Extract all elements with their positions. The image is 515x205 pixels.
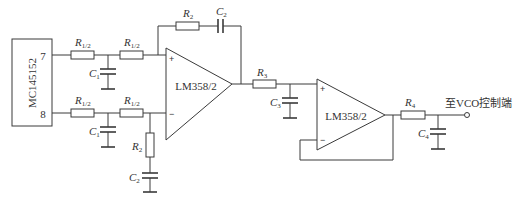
- r4-label: R4: [404, 96, 416, 110]
- resistor-r3: [253, 80, 276, 88]
- circuit-schematic: MC145152 7 8 R1/2 R1/2 C1 R1/2 R1/2 C1: [0, 0, 515, 205]
- mc145152-chip: MC145152 7 8: [12, 39, 52, 126]
- resistor-r2-feedback: [176, 22, 199, 30]
- r12-label-top-1: R1/2: [74, 36, 91, 50]
- pin-7-label: 7: [40, 50, 46, 62]
- opamp-2: LM358/2 + −: [300, 79, 401, 160]
- c1-label-top: C1: [89, 67, 100, 81]
- c4-label: C4: [418, 127, 429, 141]
- c1-label-bottom: C1: [89, 125, 100, 139]
- pin-8-label: 8: [40, 108, 46, 120]
- r12-label-top-2: R1/2: [123, 36, 140, 50]
- c2-label-feedback: C2: [216, 5, 227, 19]
- opamp2-label: LM358/2: [325, 110, 367, 122]
- output-terminal: [465, 113, 470, 118]
- resistor-r12-bottom-2: [120, 109, 143, 117]
- r2-label-ground: R2: [131, 140, 143, 154]
- r12-label-bottom-2: R1/2: [123, 94, 140, 108]
- opamp1-label: LM358/2: [175, 80, 217, 92]
- opamp1-plus: +: [169, 54, 174, 64]
- r2-label-feedback: R2: [182, 7, 194, 21]
- resistor-r12-top-2: [120, 51, 143, 59]
- top-input-filter: R1/2 R1/2 C1: [52, 36, 166, 89]
- opamp2-plus: +: [320, 84, 325, 94]
- opamp-1: LM358/2 + − R2 C2: [158, 5, 253, 140]
- bottom-input-filter: R1/2 R1/2 C1 R2 C2: [52, 94, 166, 192]
- opamp2-minus: −: [320, 135, 325, 145]
- r12-label-bottom-1: R1/2: [74, 94, 91, 108]
- output-label: 至VCO控制端: [445, 96, 512, 109]
- r3-label: R3: [256, 66, 268, 80]
- resistor-r12-bottom-1: [71, 109, 94, 117]
- stage2-filter: R3 C3: [253, 66, 317, 118]
- c3-label: C3: [270, 96, 281, 110]
- resistor-r4: [401, 111, 425, 119]
- opamp1-minus: −: [169, 109, 174, 119]
- resistor-r2-ground: [146, 133, 154, 157]
- c2-label-ground: C2: [129, 171, 140, 185]
- chip-label: MC145152: [26, 58, 38, 108]
- resistor-r12-top-1: [71, 51, 94, 59]
- output-filter: R4 C4 至VCO控制端: [401, 96, 512, 149]
